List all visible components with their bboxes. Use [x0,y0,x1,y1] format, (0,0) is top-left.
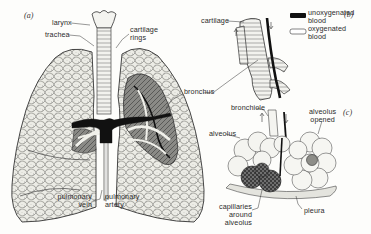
trachea-shape [97,28,111,114]
panel-label-a: (a) [24,12,34,20]
alveolus-opening [307,155,318,166]
label-pulmonary-artery: pulmonary artery [105,193,139,209]
label-pleura: pleura [304,207,325,215]
label-alveolus: alveolus [209,130,236,138]
panel-label-c: (c) [343,109,352,117]
label-cartilage-rings: cartilage rings [130,26,158,42]
label-pulmonary-vein: pulmonary vein [56,193,92,209]
label-alveolus-opened: alveolus opened [309,108,336,124]
legend-unoxygenated: unoxygenated blood [308,9,354,25]
label-bronchiole: bronchiole [231,104,265,112]
larynx-shape [92,11,116,29]
panel-a-lungs [12,11,204,223]
label-larynx: larynx [52,19,72,27]
label-capillaries-around-alveolus: capillaries around alveolus [200,203,252,227]
label-bronchus: bronchus [184,88,214,96]
legend-swatch-oxygenated [290,29,306,34]
panel-b-bronchus [234,18,290,100]
legend-swatch-unoxygenated [290,13,306,18]
legend-oxygenated: oxygenated blood [308,25,346,41]
label-cartilage: cartilage [201,17,229,25]
label-trachea: trachea [45,31,70,39]
